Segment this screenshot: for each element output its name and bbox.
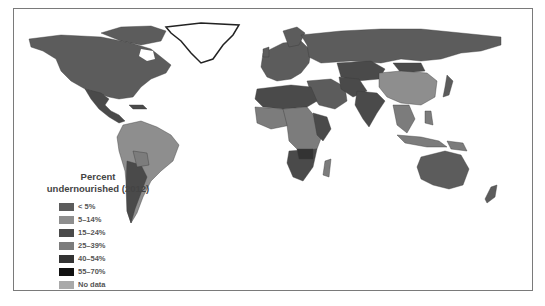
legend-swatch	[59, 281, 74, 289]
legend-items: < 5%5–14%15–24%25–39%40–54%55–70%No data	[59, 200, 158, 291]
legend-item: No data	[59, 278, 158, 291]
legend-title: Percent undernourished (2012)	[38, 171, 158, 195]
region-russia	[301, 29, 501, 63]
map-frame: Percent undernourished (2012) < 5%5–14%1…	[13, 8, 533, 291]
legend-label: 25–39%	[78, 241, 106, 250]
legend-item: 15–24%	[59, 226, 158, 239]
legend-title-line1: Percent	[38, 171, 158, 183]
legend-label: 40–54%	[78, 254, 106, 263]
legend-title-line2: undernourished (2012)	[38, 183, 158, 195]
region-india	[355, 91, 385, 127]
region-greenland	[166, 23, 239, 63]
legend-item: 55–70%	[59, 265, 158, 278]
region-china	[379, 71, 437, 105]
region-madagascar	[323, 159, 331, 177]
legend-label: 15–24%	[78, 228, 106, 237]
region-north-america	[29, 35, 171, 99]
legend-item: 5–14%	[59, 213, 158, 226]
region-zambia	[297, 149, 313, 159]
legend-item: < 5%	[59, 200, 158, 213]
legend-swatch	[59, 216, 74, 224]
legend-swatch	[59, 255, 74, 263]
legend-swatch	[59, 268, 74, 276]
legend-label: 55–70%	[78, 267, 106, 276]
region-uk	[263, 47, 269, 57]
region-australia	[417, 151, 469, 189]
region-north-africa	[255, 85, 317, 109]
region-new-guinea	[447, 141, 467, 151]
legend-item: 40–54%	[59, 252, 158, 265]
map-legend: Percent undernourished (2012) < 5%5–14%1…	[38, 171, 158, 291]
legend-label: < 5%	[78, 202, 95, 211]
legend-item: 25–39%	[59, 239, 158, 252]
region-new-zealand	[485, 185, 497, 203]
region-japan	[443, 75, 453, 97]
legend-label: 5–14%	[78, 215, 101, 224]
region-philippines	[425, 111, 433, 125]
region-caribbean	[129, 105, 147, 109]
legend-swatch	[59, 203, 74, 211]
legend-swatch	[59, 229, 74, 237]
region-southeast-asia	[393, 105, 415, 133]
region-indonesia	[397, 135, 447, 147]
legend-label: No data	[78, 280, 106, 289]
legend-swatch	[59, 242, 74, 250]
